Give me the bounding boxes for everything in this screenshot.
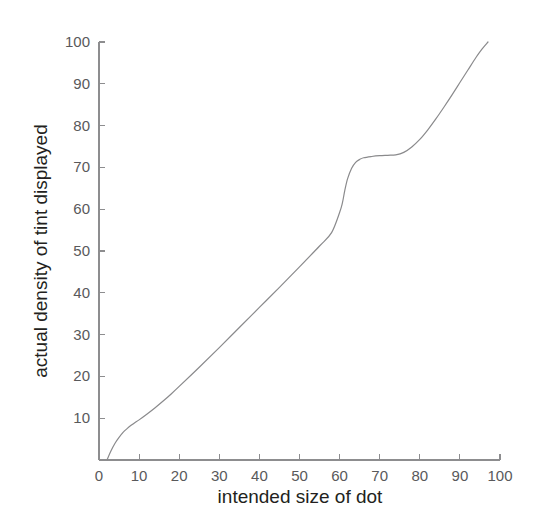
chart-figure: 0102030405060708090100 10203040506070809… (0, 0, 545, 527)
x-tick-label: 0 (95, 467, 103, 484)
y-tick-label: 90 (73, 75, 90, 92)
x-tick-label: 40 (251, 467, 268, 484)
y-axis-title: actual density of tint displayed (30, 124, 51, 378)
y-tick-label: 10 (73, 409, 90, 426)
x-tick-label: 80 (411, 467, 428, 484)
x-tick-label: 100 (487, 467, 512, 484)
x-tick-label: 30 (211, 467, 228, 484)
x-tick-label: 50 (291, 467, 308, 484)
y-tick-label: 70 (73, 158, 90, 175)
x-tick-label: 90 (452, 467, 469, 484)
y-tick-label: 40 (73, 284, 90, 301)
x-axis-title: intended size of dot (218, 486, 384, 507)
x-tick-label: 10 (131, 467, 148, 484)
x-tick-label: 70 (371, 467, 388, 484)
line-chart: 0102030405060708090100 10203040506070809… (0, 0, 545, 527)
y-tick-label: 30 (73, 326, 90, 343)
x-tick-label: 60 (331, 467, 348, 484)
y-tick-label: 20 (73, 367, 90, 384)
y-tick-label: 80 (73, 117, 90, 134)
y-tick-label: 60 (73, 200, 90, 217)
y-tick-label: 50 (73, 242, 90, 259)
x-tick-label: 20 (171, 467, 188, 484)
y-tick-label: 100 (65, 33, 90, 50)
